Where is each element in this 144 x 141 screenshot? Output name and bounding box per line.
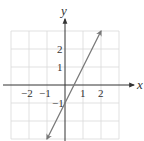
- x-tick-label: −1: [39, 87, 51, 99]
- x-axis-label: x: [136, 77, 143, 92]
- x-tick-label: 2: [98, 87, 104, 99]
- x-tick-label: 1: [80, 87, 86, 99]
- graph-svg: x y −2 −1 1 2 2 1 −1: [0, 0, 144, 141]
- y-tick-label: −1: [52, 97, 64, 109]
- y-tick-label: 2: [57, 43, 63, 55]
- coordinate-plane-figure: x y −2 −1 1 2 2 1 −1: [0, 0, 144, 141]
- x-tick-label: −2: [21, 87, 33, 99]
- y-axis-label: y: [59, 3, 67, 18]
- y-tick-label: 1: [57, 61, 63, 73]
